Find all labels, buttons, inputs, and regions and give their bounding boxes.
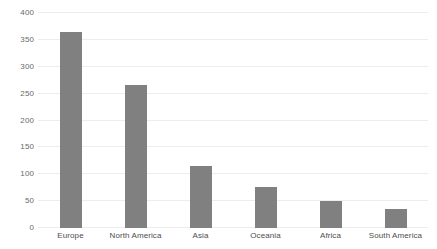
y-tick-label: 200 xyxy=(0,117,34,125)
bar-slot xyxy=(298,13,363,228)
y-tick-label: 300 xyxy=(0,63,34,71)
bars-layer xyxy=(38,13,428,228)
y-tick-label: 350 xyxy=(0,36,34,44)
bar[interactable] xyxy=(125,85,147,229)
y-tick-label: 150 xyxy=(0,143,34,151)
y-tick-label: 250 xyxy=(0,90,34,98)
bar[interactable] xyxy=(60,32,82,228)
x-tick-label: Africa xyxy=(320,232,341,240)
bar-slot xyxy=(233,13,298,228)
bar[interactable] xyxy=(255,187,277,228)
y-axis: 050100150200250300350400 xyxy=(0,13,34,228)
x-tick-label: South America xyxy=(369,232,422,240)
y-tick-label: 100 xyxy=(0,170,34,178)
x-axis: EuropeNorth AmericaAsiaOceaniaAfricaSout… xyxy=(38,232,428,248)
x-tick-label: Europe xyxy=(57,232,83,240)
bar[interactable] xyxy=(385,209,407,228)
y-tick-label: 0 xyxy=(0,224,34,232)
bar-chart: 050100150200250300350400 EuropeNorth Ame… xyxy=(0,0,437,249)
x-tick-label: Asia xyxy=(193,232,209,240)
bar-slot xyxy=(168,13,233,228)
x-tick-label: North America xyxy=(110,232,162,240)
x-tick-label: Oceania xyxy=(250,232,281,240)
bar-slot xyxy=(38,13,103,228)
bar-slot xyxy=(363,13,428,228)
bar-slot xyxy=(103,13,168,228)
bar[interactable] xyxy=(190,166,212,228)
y-tick-label: 400 xyxy=(0,9,34,17)
y-tick-label: 50 xyxy=(0,197,34,205)
bar[interactable] xyxy=(320,201,342,228)
